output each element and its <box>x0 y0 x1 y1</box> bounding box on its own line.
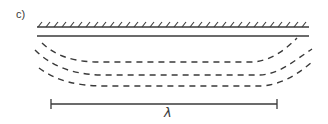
dashed-curves <box>35 38 312 86</box>
dashed-curve-3 <box>39 62 312 86</box>
dashed-curve-1 <box>42 38 297 62</box>
hatched-boundary <box>37 22 309 27</box>
wavelength-label: λ <box>164 105 172 120</box>
panel-label: c) <box>16 8 25 20</box>
